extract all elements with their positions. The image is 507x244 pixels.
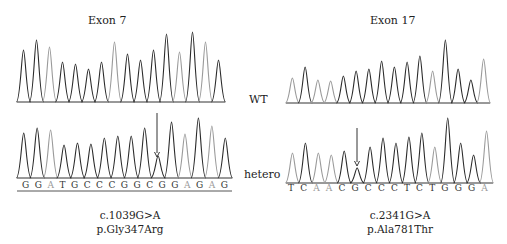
base-A: A	[481, 183, 488, 193]
base-G: G	[22, 180, 29, 190]
exon7-wt-trace-peak	[16, 50, 30, 102]
exon7-wt-trace-peak	[68, 64, 82, 102]
exon17-het-trace-peak	[402, 137, 416, 183]
cdna-change-exon17: c.2341G>A	[340, 208, 460, 222]
exon7-wt-trace-peak	[146, 50, 160, 102]
mutation-label-exon17: c.2341G>A p.Ala781Thr	[340, 208, 460, 236]
exon7-het-trace-peak	[110, 136, 125, 178]
exon7-het-trace-peak	[164, 122, 179, 178]
exon7-het-trace-peak	[43, 130, 58, 178]
base-G: G	[121, 180, 128, 190]
exon17-wt-trace-peak	[349, 71, 363, 103]
base-T: T	[404, 183, 410, 193]
exon7-wt-trace-peak	[198, 42, 212, 102]
base-C: C	[108, 180, 115, 190]
exon17-wt-trace-peak	[362, 69, 376, 103]
protein-change-exon7: p.Gly347Arg	[70, 222, 190, 236]
exon17-wt-trace-peak	[285, 78, 299, 103]
exon17-het-trace-peak	[479, 131, 493, 183]
exon7-het-trace-peak	[57, 145, 72, 178]
mutation-label-exon7: c.1039G>A p.Gly347Arg	[70, 208, 190, 236]
exon7-het-trace-peak	[191, 118, 206, 178]
exon17-het-trace-peak	[376, 138, 390, 183]
exon7-wt-trace-peak	[94, 62, 108, 102]
base-G: G	[159, 180, 166, 190]
base-G: G	[441, 183, 448, 193]
exon17-wt-trace-peak	[400, 62, 414, 103]
base-G: G	[171, 180, 178, 190]
exon17-wt-trace-peak	[298, 67, 312, 103]
base-C: C	[416, 183, 423, 193]
base-C: C	[391, 183, 398, 193]
base-C: C	[300, 183, 307, 193]
exon17-wt-trace-peak	[336, 76, 350, 103]
exon7-het-trace-peak	[16, 133, 31, 178]
base-G: G	[352, 183, 359, 193]
base-G: G	[468, 183, 475, 193]
exon17-wt-trace-peak	[477, 59, 491, 103]
base-A: A	[47, 180, 54, 190]
exon7-het-trace-peak	[151, 156, 166, 178]
base-A: A	[209, 180, 216, 190]
base-G: G	[455, 183, 462, 193]
exon17-het-trace-peak	[389, 143, 403, 183]
base-T: T	[288, 183, 294, 193]
exon7-het-trace-peak	[137, 128, 152, 178]
exon7-wt-trace-peak	[81, 69, 95, 102]
base-G: G	[35, 180, 42, 190]
exon17-wt-trace-peak	[375, 61, 389, 103]
protein-change-exon17: p.Ala781Thr	[340, 222, 460, 236]
exon17-het-trace-peak	[363, 147, 377, 183]
exon7-het-trace-peak	[97, 138, 112, 178]
exon17-het-trace-peak	[454, 143, 468, 183]
exon17-het-trace-peak	[324, 155, 338, 183]
base-T: T	[59, 180, 65, 190]
exon17-het-trace-peak	[350, 168, 364, 183]
exon17-het-trace-peak	[441, 118, 455, 183]
exon17-het-trace-peak	[466, 155, 480, 183]
exon7-wt-trace-peak	[185, 32, 199, 102]
exon7-wt-trace-peak	[172, 52, 186, 102]
exon17-het-trace-peak	[311, 153, 325, 183]
exon7-wt-trace-peak	[107, 42, 121, 102]
exon17-wt-trace-peak	[413, 56, 427, 103]
exon7-wt-trace-peak	[55, 62, 69, 102]
exon7-wt-trace-peak	[211, 60, 225, 102]
base-T: T	[429, 183, 435, 193]
base-G: G	[221, 180, 228, 190]
exon17-het-trace-peak	[337, 151, 351, 183]
sequence-exon7: GGATGCCCGGCGGAGAG	[22, 180, 228, 190]
exon7-het-trace-peak	[178, 134, 193, 178]
exon17-wt-trace-peak	[451, 69, 465, 103]
exon17-wt-trace-peak	[426, 71, 440, 103]
exon7-wt-trace-peak	[29, 40, 43, 102]
base-G: G	[134, 180, 141, 190]
exon7-het-trace-peak	[30, 128, 45, 178]
exon7-wt-trace-peak	[133, 60, 147, 102]
exon17-wt-trace-peak	[438, 40, 452, 103]
exon7-het-trace-peak	[218, 138, 233, 178]
exon17-wt-trace-peak	[464, 80, 478, 103]
base-C: C	[365, 183, 372, 193]
base-C: C	[338, 183, 345, 193]
exon17-het-trace-peak	[428, 147, 442, 183]
exon17-het-trace-peak	[415, 133, 429, 183]
exon17-wt-trace-peak	[324, 81, 338, 103]
base-C: C	[96, 180, 103, 190]
exon7-het-trace-peak	[70, 143, 85, 178]
exon7-wt-trace-peak	[120, 54, 134, 102]
base-A: A	[326, 183, 333, 193]
base-C: C	[146, 180, 153, 190]
exon17-het-trace-peak	[285, 153, 299, 183]
exon17-wt-trace-peak	[387, 67, 401, 103]
base-A: A	[313, 183, 320, 193]
base-A: A	[184, 180, 191, 190]
exon7-het-trace-peak	[204, 126, 219, 178]
cdna-change-exon7: c.1039G>A	[70, 208, 190, 222]
base-G: G	[71, 180, 78, 190]
base-C: C	[84, 180, 91, 190]
exon7-wt-trace-peak	[42, 47, 56, 102]
base-C: C	[378, 183, 385, 193]
base-G: G	[196, 180, 203, 190]
exon7-wt-trace-peak	[159, 34, 173, 102]
